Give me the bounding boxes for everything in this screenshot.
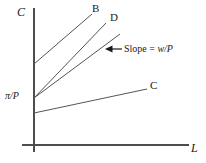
y-axis-label: C — [17, 6, 25, 18]
curve-d-line — [34, 23, 106, 98]
slope-annotation-prefix: Slope = — [124, 43, 157, 54]
curve-b-line — [34, 14, 92, 64]
x-axis-label: L — [191, 142, 198, 154]
slope-callout-arrow — [105, 46, 122, 53]
figure-canvas — [0, 0, 206, 163]
curve-c-line — [34, 89, 147, 113]
slope-annotation: Slope = w/P — [124, 44, 173, 54]
cost-curve-figure: C L B D C π/P Slope = w/P — [0, 0, 206, 163]
slope-w-over-p-line — [34, 34, 120, 98]
y-intercept-label: π/P — [5, 91, 19, 101]
curve-c-label: C — [150, 80, 157, 91]
curve-b-label: B — [92, 3, 99, 14]
slope-annotation-expression: w/P — [157, 43, 173, 54]
curve-d-label: D — [110, 12, 118, 23]
